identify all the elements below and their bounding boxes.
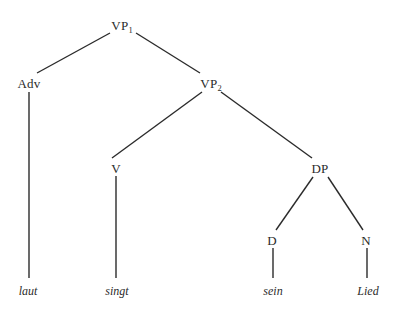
tree-node-label: DP (311, 161, 328, 176)
tree-node-label: Adv (18, 76, 41, 91)
tree-node-vp2: VP2 (200, 77, 221, 90)
tree-leaf-singt: singt (105, 285, 128, 297)
tree-branch-vp2-dp (221, 92, 312, 158)
tree-leaf-Lied: Lied (357, 285, 378, 297)
tree-node-label: VP (200, 76, 217, 91)
tree-branch-dp-n (328, 177, 363, 230)
tree-node-dp: DP (311, 162, 328, 175)
tree-node-label: V (111, 161, 121, 176)
tree-leaf-sein: sein (263, 285, 282, 297)
syntax-tree-figure: VP1AdvVP2VDPDN lautsingtseinLied (0, 0, 394, 314)
tree-node-label: N (361, 233, 371, 248)
tree-node-subscript: 1 (128, 25, 132, 35)
tree-node-adv: Adv (18, 77, 41, 90)
tree-node-vp1: VP1 (111, 19, 132, 32)
tree-branch-vp1-vp2 (136, 33, 200, 73)
tree-branch-vp1-adv (37, 33, 110, 73)
tree-node-subscript: 2 (217, 83, 221, 93)
tree-branch-dp-d (276, 177, 313, 230)
tree-node-v: V (111, 162, 121, 175)
tree-node-d: D (267, 234, 277, 247)
tree-node-n: N (361, 234, 371, 247)
tree-branch-vp2-v (112, 92, 202, 158)
tree-node-label: D (267, 233, 277, 248)
tree-edge-layer (0, 0, 394, 314)
tree-leaf-laut: laut (19, 285, 38, 297)
tree-node-label: VP (111, 18, 128, 33)
